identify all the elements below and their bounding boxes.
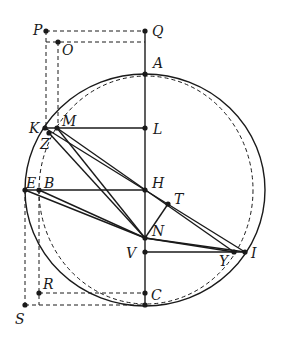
dashed-construction-lines [25, 31, 145, 305]
label-V: V [126, 245, 138, 261]
point-Z [46, 130, 51, 135]
point-V [142, 249, 147, 254]
label-Y: Y [219, 253, 230, 269]
solid-segment [39, 190, 145, 238]
label-N: N [151, 223, 165, 239]
label-E: E [25, 175, 36, 191]
label-L: L [152, 121, 162, 137]
solid-segment [49, 133, 145, 238]
label-H: H [151, 175, 165, 191]
label-K: K [28, 120, 41, 136]
label-Z: Z [39, 136, 50, 152]
point-P [43, 28, 48, 33]
label-M: M [61, 113, 77, 129]
point-N [142, 235, 147, 240]
solid-segment [57, 128, 145, 238]
point-Cb [142, 302, 147, 307]
geometry-diagram: P Q O A K M Z L E B H T N V Y I R C S [0, 0, 282, 343]
point-A [142, 71, 147, 76]
label-I: I [250, 245, 257, 261]
label-R: R [42, 276, 54, 292]
solid-segment [145, 238, 234, 252]
label-A: A [151, 55, 163, 71]
label-S: S [15, 311, 25, 327]
point-K [42, 125, 47, 130]
point-L [142, 125, 147, 130]
label-Q: Q [152, 23, 164, 39]
point-T [165, 201, 170, 206]
point-Y [231, 249, 236, 254]
label-B: B [43, 175, 54, 191]
point-Q [142, 28, 147, 33]
point-O [55, 39, 60, 44]
point-R [36, 290, 41, 295]
point-S [22, 302, 27, 307]
point-B [36, 187, 41, 192]
solid-segment [25, 190, 145, 238]
point-C [142, 290, 147, 295]
points [22, 28, 247, 307]
label-C: C [151, 287, 162, 303]
point-H [142, 187, 147, 192]
label-P: P [32, 22, 43, 38]
point-labels: P Q O A K M Z L E B H T N V Y I R C S [15, 22, 257, 327]
point-M [54, 125, 59, 130]
point-I [242, 249, 247, 254]
label-O: O [62, 42, 74, 58]
label-T: T [174, 191, 185, 207]
